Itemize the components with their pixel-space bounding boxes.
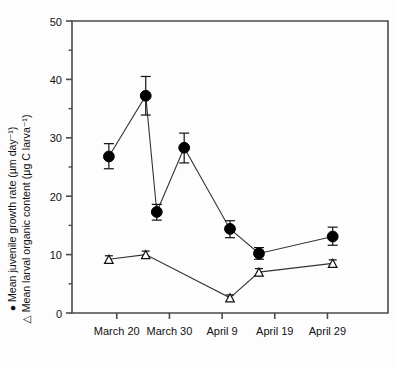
y-tick-label-20: 20 [50,191,62,203]
y-axis-label-line-2: △ Mean larval organic content (µg C larv… [20,115,32,324]
x-tick-label-4: April 29 [309,325,346,337]
data-point-circle [179,142,190,153]
y-tick-label-50: 50 [50,16,62,28]
y-tick-label-30: 30 [50,132,62,144]
data-point-circle [254,248,265,259]
y-tick-label-40: 40 [50,74,62,86]
x-tick-label-3: April 19 [256,325,293,337]
data-point-circle [327,231,338,242]
series-growth-rate [103,76,338,259]
series-line [109,96,333,254]
data-point-circle [140,90,151,101]
y-axis-label-line-1: ● Mean juvenile growth rate (µm day⁻¹) [6,127,18,312]
x-tick-label-0: March 20 [94,325,140,337]
y-tick-label-10: 10 [50,249,62,261]
figure-panel: 01020304050March 20March 30April 9April … [0,0,397,369]
data-point-circle [225,224,236,235]
x-tick-label-1: March 30 [147,325,193,337]
chart-canvas: 01020304050March 20March 30April 9April … [0,0,397,369]
series-line [109,255,333,298]
x-tick-label-2: April 9 [207,325,238,337]
data-point-circle [103,151,114,162]
y-tick-label-0: 0 [56,308,62,320]
data-point-circle [151,207,162,218]
axis-frame [72,21,388,313]
series-organic-content [105,251,337,302]
